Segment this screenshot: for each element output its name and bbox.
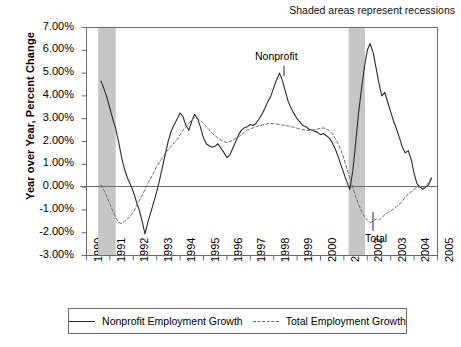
total-curve-label: Total [365,232,387,244]
data-series [101,43,432,233]
nonprofit-curve-label: Nonprofit [255,50,298,62]
recession-band [349,28,365,256]
series-line [101,43,432,233]
legend-swatch [253,321,279,322]
legend-swatch [69,321,95,322]
plot-area [0,0,461,275]
chart-canvas [0,0,461,275]
legend-item: Nonprofit Employment Growth [69,315,243,327]
y-tick-marks [82,28,87,256]
legend-label: Total Employment Growth [286,315,406,327]
chart-root: Shaded areas represent recessions Year o… [0,0,461,347]
x-tick-marks [87,256,438,261]
recession-bands [98,28,365,256]
chart-legend: Nonprofit Employment GrowthTotal Employm… [68,308,407,334]
recession-band [98,28,116,256]
series-line [101,118,432,224]
legend-item: Total Employment Growth [253,315,406,327]
legend-label: Nonprofit Employment Growth [102,315,243,327]
